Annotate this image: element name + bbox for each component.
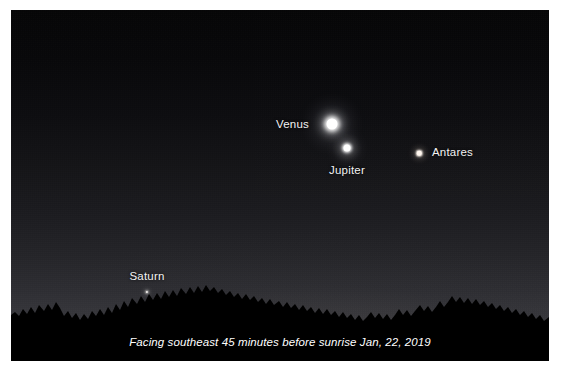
celestial-object-antares bbox=[417, 151, 422, 156]
label-jupiter: Jupiter bbox=[329, 165, 365, 177]
sky-photograph: VenusJupiterAntaresSaturn Facing southea… bbox=[11, 10, 549, 361]
label-venus: Venus bbox=[276, 119, 309, 131]
label-antares: Antares bbox=[432, 147, 473, 159]
photo-frame: VenusJupiterAntaresSaturn Facing southea… bbox=[0, 0, 561, 378]
celestial-object-jupiter bbox=[344, 145, 351, 152]
celestial-object-venus bbox=[327, 119, 338, 130]
photo-caption: Facing southeast 45 minutes before sunri… bbox=[11, 336, 549, 348]
